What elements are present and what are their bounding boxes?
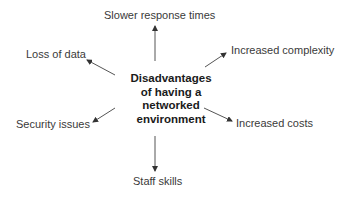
node-slower-response-times: Slower response times: [104, 9, 215, 22]
central-topic-line-4: environment: [112, 113, 230, 127]
central-topic-line-1: Disadvantages: [112, 72, 230, 86]
node-security-issues: Security issues: [16, 118, 90, 131]
arrow-to-loss-of-data: [87, 60, 115, 75]
node-increased-costs: Increased costs: [236, 117, 313, 130]
mind-map-diagram: Disadvantages of having a networked envi…: [0, 0, 345, 197]
central-topic: Disadvantages of having a networked envi…: [112, 72, 230, 126]
node-staff-skills: Staff skills: [133, 175, 182, 188]
node-loss-of-data: Loss of data: [26, 48, 86, 61]
node-increased-complexity: Increased complexity: [231, 44, 334, 57]
central-topic-line-3: networked: [112, 99, 230, 113]
arrow-to-increased-complexity: [205, 53, 226, 67]
central-topic-line-2: of having a: [112, 86, 230, 100]
